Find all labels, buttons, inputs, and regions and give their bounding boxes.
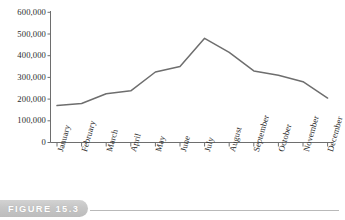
- x-axis-tick-label-june: June: [178, 134, 192, 152]
- x-axis-tick-label-february: February: [79, 119, 97, 152]
- x-axis-tick-label-august: August: [227, 125, 244, 152]
- figure-caption-bar: FIGURE 15.3: [0, 198, 339, 220]
- x-axis-tick-label-april: April: [128, 132, 143, 153]
- caption-rule: [90, 210, 339, 211]
- line-chart: #y-axis-line, #x-axis-line { stroke: #6e…: [0, 0, 339, 196]
- figure-caption-pill: FIGURE 15.3: [0, 200, 88, 217]
- x-axis-tick-label-november: November: [301, 114, 321, 152]
- x-axis-tick-label-july: July: [202, 135, 216, 152]
- x-axis-tick-label-may: May: [153, 134, 167, 152]
- x-axis-tick-label-march: March: [104, 127, 120, 152]
- x-axis-tick-label-september: September: [251, 113, 271, 152]
- figure-caption-label: FIGURE 15.3: [0, 204, 79, 214]
- x-axis-tick-label-december: December: [325, 115, 345, 152]
- x-axis-tick-label-october: October: [276, 122, 293, 152]
- x-axis-tick-label-january: January: [55, 123, 72, 152]
- x-axis-tick-labels: JanuaryFebruaryMarchAprilMayJuneJulyAugu…: [0, 0, 339, 196]
